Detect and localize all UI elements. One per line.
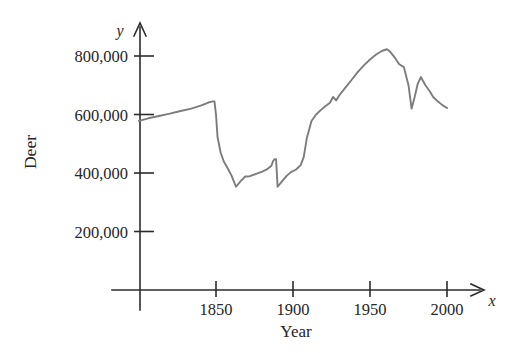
y-tick-label: 600,000 <box>74 106 128 125</box>
x-axis-symbol-label: x <box>487 292 495 309</box>
y-tick-label: 800,000 <box>74 47 128 66</box>
y-tick-label: 400,000 <box>74 164 128 183</box>
deer-population-chart: 200,000400,000600,000800,000 18501900195… <box>0 0 523 353</box>
x-tick-label: 2000 <box>431 300 464 319</box>
x-tick-label: 1850 <box>200 300 233 319</box>
y-tick-group: 200,000400,000600,000800,000 <box>74 47 154 242</box>
chart-canvas: 200,000400,000600,000800,000 18501900195… <box>0 0 523 353</box>
x-tick-label: 1950 <box>354 300 387 319</box>
deer-population-line <box>139 49 447 186</box>
y-tick-label: 200,000 <box>74 223 128 242</box>
x-tick-group: 1850190019502000 <box>200 281 464 319</box>
x-axis-title: Year <box>280 322 312 341</box>
y-axis-symbol-label: y <box>114 22 124 40</box>
x-tick-label: 1900 <box>277 300 310 319</box>
y-axis-title: Deer <box>20 135 40 169</box>
